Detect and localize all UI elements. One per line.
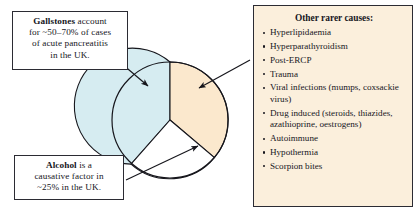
pie-outline [112,62,228,178]
arrow-rarer [199,60,250,88]
rarer-causes-list: Hyperlipidaemia Hyperparathyroidism Post… [262,27,406,172]
rarer-slice [170,62,228,158]
callout-gallstones-keyword: Gallstones [33,16,75,26]
panel-title: Other rarer causes: [262,13,406,23]
list-item: Autoimmune [262,133,406,144]
callout-gallstones-line1: account [75,16,107,26]
callout-gallstones: Gallstones account for ~50–70% of cases … [12,11,128,70]
pancreatitis-causes-figure: Gallstones account for ~50–70% of cases … [0,0,417,213]
callout-alcohol-line1: is a [77,160,92,170]
list-item: Drug induced (steroids, thiazides, azath… [262,108,406,131]
callout-alcohol-line2: causative factor in [34,171,103,181]
list-item: Trauma [262,69,406,80]
list-item: Post-ERCP [262,55,406,66]
list-item: Viral infections (mumps, coxsackie virus… [262,82,406,105]
callout-gallstones-line3: of acute pancreatitis [32,38,108,48]
callout-alcohol-line3: ~25% in the UK. [37,182,101,192]
list-item: Scorpion bites [262,161,406,172]
list-item: Hypothermia [262,147,406,158]
list-item: Hyperparathyroidism [262,41,406,52]
callout-gallstones-line4: in the UK. [50,50,90,60]
callout-gallstones-line2: for ~50–70% of cases [29,27,111,37]
list-item: Hyperlipidaemia [262,27,406,38]
panel-other-rarer-causes: Other rarer causes: Hyperlipidaemia Hype… [253,5,413,207]
callout-alcohol: Alcohol is a causative factor in ~25% in… [14,155,124,200]
callout-alcohol-keyword: Alcohol [46,160,77,170]
arrow-alcohol [126,146,198,180]
alcohol-slice [131,120,214,179]
